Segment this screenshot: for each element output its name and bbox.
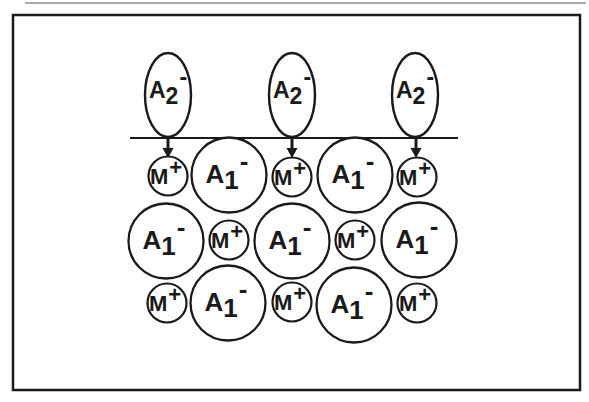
- cation-label-superscript: +: [418, 156, 431, 181]
- cation-label-base: M: [399, 165, 417, 190]
- lattice-anion-label-subscript: 1: [287, 231, 301, 261]
- lattice-anion-label-subscript: 1: [350, 165, 364, 195]
- cation-label-base: M: [150, 164, 168, 189]
- lattice-anion-label-base: A: [331, 289, 350, 319]
- incoming-anion-label-subscript: 2: [290, 83, 303, 109]
- lattice-anion-label-superscript: -: [239, 274, 248, 304]
- cation-label-base: M: [149, 291, 167, 316]
- incoming-anion-label-subscript: 2: [166, 83, 179, 109]
- incoming-anion-label-superscript: -: [179, 64, 187, 90]
- lattice-anion-label-subscript: 1: [349, 295, 363, 325]
- cation-label-superscript: +: [356, 219, 369, 244]
- cation-label-base: M: [211, 228, 229, 253]
- lattice-anion-label-base: A: [206, 159, 225, 189]
- cation-label-base: M: [274, 290, 292, 315]
- lattice-anion-label-superscript: -: [365, 276, 374, 306]
- lattice-anion-label-superscript: -: [177, 212, 186, 242]
- cation-label-base: M: [274, 165, 292, 190]
- lattice-anion-label-superscript: -: [430, 211, 439, 241]
- cation-label-superscript: +: [418, 282, 431, 307]
- lattice-anion-label-base: A: [205, 287, 224, 317]
- cation-label-superscript: +: [169, 155, 182, 180]
- lattice-anion-label-base: A: [332, 159, 351, 189]
- incoming-anion-label-base: A: [273, 77, 290, 103]
- cation-label-superscript: +: [230, 219, 243, 244]
- lattice-anion-label-subscript: 1: [161, 231, 175, 261]
- lattice-anion-label-subscript: 1: [223, 293, 237, 323]
- incoming-anion-label-subscript: 2: [413, 83, 426, 109]
- lattice-anion-label-superscript: -: [303, 212, 312, 242]
- lattice-anion-label-base: A: [269, 225, 288, 255]
- incoming-anion-label-superscript: -: [426, 64, 434, 90]
- lattice-anion-label-superscript: -: [366, 146, 375, 176]
- figure-canvas: A2-A2-A2-A1-A1-A1-A1-A1-A1-A1-M+M+M+M+M+…: [0, 0, 589, 402]
- lattice-anion-label-base: A: [396, 224, 415, 254]
- lattice-anion-label-superscript: -: [240, 146, 249, 176]
- cation-label-base: M: [399, 291, 417, 316]
- cation-label-superscript: +: [168, 282, 181, 307]
- incoming-anion-label-base: A: [396, 77, 413, 103]
- ion-exchange-diagram: A2-A2-A2-A1-A1-A1-A1-A1-A1-A1-M+M+M+M+M+…: [0, 0, 589, 402]
- lattice-anion-label-subscript: 1: [224, 165, 238, 195]
- incoming-anion-label-base: A: [149, 77, 166, 103]
- lattice-anion-label-subscript: 1: [414, 230, 428, 260]
- cation-label-superscript: +: [293, 281, 306, 306]
- cation-label-superscript: +: [293, 156, 306, 181]
- cation-label-base: M: [337, 228, 355, 253]
- incoming-anion-label-superscript: -: [303, 64, 311, 90]
- lattice-anion-label-base: A: [143, 225, 162, 255]
